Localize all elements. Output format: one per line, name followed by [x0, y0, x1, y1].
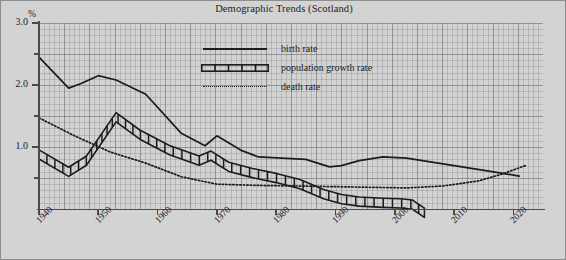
chart-legend: birth rate population growth rate death … — [199, 39, 372, 96]
legend-key-ladder-icon — [199, 62, 271, 73]
legend-key-solid-icon — [199, 43, 271, 54]
y-tick-minor — [34, 53, 38, 55]
y-tick-label: 3.0 — [2, 16, 28, 27]
legend-item-birth-rate: birth rate — [199, 39, 372, 58]
y-tick-major — [32, 146, 38, 148]
y-axis-unit-label: % — [28, 9, 36, 19]
x-axis — [37, 209, 545, 211]
legend-label-population-growth-rate: population growth rate — [281, 62, 372, 73]
y-tick-label: 2.0 — [2, 78, 28, 89]
y-tick-label: 1.0 — [2, 140, 28, 151]
y-tick-major — [32, 22, 38, 24]
legend-label-birth-rate: birth rate — [281, 43, 317, 54]
legend-item-population-growth-rate: population growth rate — [199, 58, 372, 77]
demographic-trends-chart: Demographic Trends (Scotland) % 3.02.01.… — [0, 0, 566, 260]
chart-title: Demographic Trends (Scotland) — [1, 3, 566, 14]
y-tick-minor — [34, 115, 38, 117]
legend-item-death-rate: death rate — [199, 77, 372, 96]
y-tick-major — [32, 84, 38, 86]
legend-key-dotted-icon — [199, 81, 271, 92]
series-line-population-growth-rate — [39, 113, 424, 208]
y-axis — [38, 21, 40, 211]
y-tick-minor — [34, 177, 38, 179]
legend-label-death-rate: death rate — [281, 81, 320, 92]
